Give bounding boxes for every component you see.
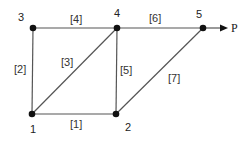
member-label: [7] (168, 72, 180, 84)
member-line-5 (116, 28, 117, 114)
member-line-2 (32, 28, 33, 114)
truss-diagram: P [1][2][3][4][5][6][7]12345 (0, 0, 245, 141)
load-arrow-group: P (203, 21, 238, 35)
node-label: 1 (30, 123, 36, 135)
load-label: P (231, 21, 238, 35)
node-2-joint-icon (113, 111, 120, 118)
member-label: [6] (149, 12, 161, 24)
member-label: [3] (61, 56, 73, 68)
labels-group: [1][2][3][4][5][6][7]12345 (14, 7, 202, 135)
node-label: 5 (196, 8, 202, 20)
node-label: 2 (125, 121, 131, 133)
node-label: 3 (18, 11, 24, 23)
node-3-joint-icon (30, 25, 37, 32)
member-label: [1] (70, 118, 82, 130)
arrow-right-icon (220, 25, 228, 32)
node-5-joint-icon (200, 25, 207, 32)
member-label: [4] (70, 13, 82, 25)
node-label: 4 (114, 7, 120, 19)
node-4-joint-icon (114, 25, 121, 32)
members-group (32, 28, 203, 114)
member-label: [2] (14, 63, 26, 75)
nodes-group (29, 25, 207, 118)
member-line-3 (32, 28, 117, 114)
member-label: [5] (120, 64, 132, 76)
node-1-joint-icon (29, 111, 36, 118)
